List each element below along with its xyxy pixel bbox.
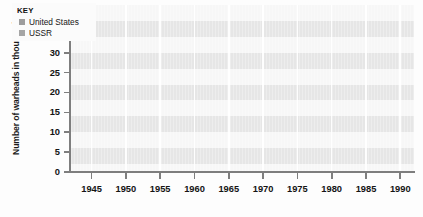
plot-texture-line (392, 5, 393, 172)
x-axis-tick (262, 173, 264, 179)
plot-texture-line (131, 5, 132, 172)
x-axis-tick (331, 173, 333, 179)
plot-texture-line (317, 5, 318, 172)
plot-texture-line (212, 5, 213, 172)
vertical-gridline (331, 5, 333, 172)
plot-texture-line (326, 5, 327, 172)
legend-item: USSR (19, 28, 92, 39)
plot-texture-line (248, 5, 249, 172)
plot-texture-line (128, 5, 129, 172)
plot-texture-line (239, 5, 240, 172)
x-axis-tick (125, 173, 127, 179)
legend-items: United StatesUSSR (17, 17, 92, 39)
plot-texture-line (140, 5, 141, 172)
plot-texture-line (242, 5, 243, 172)
plot-texture-line (362, 5, 363, 172)
plot-texture-line (341, 5, 342, 172)
plot-texture-line (257, 5, 258, 172)
plot-texture-line (272, 5, 273, 172)
plot-texture-line (377, 5, 378, 172)
x-axis-tick (91, 173, 93, 179)
y-axis-tick-label: 0 (34, 167, 60, 177)
plot-texture-line (302, 5, 303, 172)
plot-texture-line (320, 5, 321, 172)
plot-texture-line (350, 5, 351, 172)
plot-texture-line (146, 5, 147, 172)
plot-texture-line (386, 5, 387, 172)
vertical-gridline (194, 5, 196, 172)
plot-texture-line (176, 5, 177, 172)
y-axis-tick (64, 52, 70, 54)
vertical-gridline (297, 5, 299, 172)
legend-swatch-icon (19, 30, 25, 36)
x-axis-tick (194, 173, 196, 179)
plot-texture-line (161, 5, 162, 172)
y-axis-tick-label: 25 (34, 68, 60, 78)
plot-texture-line (404, 5, 405, 172)
plot-texture-line (269, 5, 270, 172)
plot-texture-line (167, 5, 168, 172)
plot-texture-line (380, 5, 381, 172)
plot-texture-line (110, 5, 111, 172)
plot-texture-line (107, 5, 108, 172)
y-axis-tick (64, 92, 70, 94)
plot-texture-line (338, 5, 339, 172)
plot-texture-line (266, 5, 267, 172)
chart-figure: Number of warheads in thousands 05101520… (0, 0, 423, 217)
plot-texture-line (119, 5, 120, 172)
plot-texture-line (170, 5, 171, 172)
plot-texture-line (410, 5, 411, 172)
chart-legend: KEY United StatesUSSR (12, 3, 96, 41)
legend-item-label: USSR (29, 28, 52, 38)
plot-area (71, 5, 414, 172)
plot-texture-line (191, 5, 192, 172)
vertical-gridline (365, 5, 367, 172)
plot-texture-line (230, 5, 231, 172)
plot-texture-line (323, 5, 324, 172)
plot-texture-line (368, 5, 369, 172)
plot-texture-line (152, 5, 153, 172)
x-axis-tick (228, 173, 230, 179)
plot-texture-line (101, 5, 102, 172)
plot-texture-line (347, 5, 348, 172)
plot-texture-line (134, 5, 135, 172)
plot-texture-line (254, 5, 255, 172)
vertical-gridline (399, 5, 401, 172)
plot-texture-line (281, 5, 282, 172)
plot-texture-line (311, 5, 312, 172)
plot-texture-line (215, 5, 216, 172)
x-axis-tick (399, 173, 401, 179)
plot-texture-line (182, 5, 183, 172)
y-axis-tick-label: 30 (34, 48, 60, 58)
plot-texture-line (401, 5, 402, 172)
plot-texture-line (407, 5, 408, 172)
plot-texture-line (209, 5, 210, 172)
plot-texture-line (290, 5, 291, 172)
plot-texture-line (113, 5, 114, 172)
x-axis-tick (159, 173, 161, 179)
legend-title: KEY (17, 6, 92, 15)
y-axis-tick-label: 5 (34, 147, 60, 157)
plot-texture-line (236, 5, 237, 172)
plot-texture-line (260, 5, 261, 172)
plot-texture-line (104, 5, 105, 172)
y-axis-tick (64, 131, 70, 133)
plot-texture-line (284, 5, 285, 172)
plot-texture-line (314, 5, 315, 172)
plot-texture-line (149, 5, 150, 172)
vertical-gridline (159, 5, 161, 172)
plot-texture-line (356, 5, 357, 172)
plot-texture-line (164, 5, 165, 172)
y-axis-tick-label: 20 (34, 87, 60, 97)
y-axis-tick (64, 72, 70, 74)
y-axis-tick (64, 112, 70, 114)
plot-texture-line (413, 5, 414, 172)
vertical-gridline (262, 5, 264, 172)
plot-texture-line (224, 5, 225, 172)
plot-texture-line (383, 5, 384, 172)
plot-texture-line (116, 5, 117, 172)
plot-texture-line (137, 5, 138, 172)
plot-texture-line (299, 5, 300, 172)
x-axis-tick (365, 173, 367, 179)
plot-texture-line (233, 5, 234, 172)
